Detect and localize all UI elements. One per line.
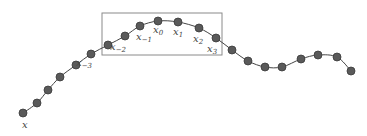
sample-point xyxy=(261,63,269,71)
sample-point xyxy=(56,73,64,81)
sample-point xyxy=(333,53,341,61)
label-x3: x3 xyxy=(207,43,218,56)
sample-point xyxy=(314,51,322,59)
label-x: x xyxy=(22,119,28,130)
sample-point xyxy=(195,24,203,32)
sample-point xyxy=(347,67,355,75)
sample-point xyxy=(19,109,27,117)
label-x2: x2 xyxy=(193,33,204,46)
sample-point xyxy=(87,50,95,58)
sample-point xyxy=(174,18,182,26)
point-labels: xx−3x−2x−1x0x1x2x3 xyxy=(22,24,218,130)
label-x-2: x−2 xyxy=(110,41,127,54)
sample-point xyxy=(136,22,144,30)
sample-point xyxy=(33,99,41,107)
label-x1: x1 xyxy=(173,26,183,39)
sample-point xyxy=(44,86,52,94)
sample-point xyxy=(244,57,252,65)
sample-point xyxy=(212,34,220,42)
sample-point xyxy=(228,46,236,54)
sample-point xyxy=(297,55,305,63)
label-x0: x0 xyxy=(153,24,164,37)
sample-point xyxy=(278,63,286,71)
label-x-1: x−1 xyxy=(136,31,152,44)
sample-points xyxy=(19,17,355,117)
sample-point xyxy=(121,32,129,40)
curve-diagram: xx−3x−2x−1x0x1x2x3 xyxy=(0,0,367,136)
